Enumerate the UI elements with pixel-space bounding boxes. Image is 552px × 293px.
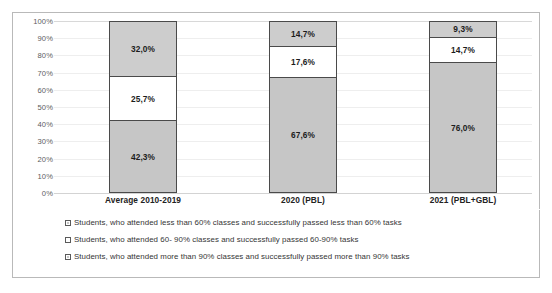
stacked-bar-chart: 100%90%80%70%60%50%40%30%20%10%0% 32,0%2… bbox=[13, 13, 541, 209]
legend-swatch-icon bbox=[65, 254, 71, 260]
x-axis-category-label: 2020 (PBL) bbox=[223, 195, 383, 205]
y-axis-tick: 40% bbox=[19, 120, 53, 129]
legend-swatch-icon bbox=[65, 237, 71, 243]
x-axis-category-label: 2021 (PBL+GBL) bbox=[383, 195, 543, 205]
chart-legend: Students, who attended less than 60% cla… bbox=[13, 213, 541, 267]
bar-segment-value-label: 9,3% bbox=[453, 24, 472, 34]
legend-item[interactable]: Students, who attended more than 90% cla… bbox=[65, 251, 410, 262]
legend-item-label: Students, who attended more than 90% cla… bbox=[74, 252, 410, 261]
y-axis-tick: 60% bbox=[19, 85, 53, 94]
bar-segment[interactable]: 14,7% bbox=[269, 21, 337, 46]
bar-segment-value-label: 67,6% bbox=[291, 130, 315, 140]
bar-segment[interactable]: 67,6% bbox=[269, 77, 337, 193]
legend-item-label: Students, who attended 60- 90% classes a… bbox=[74, 235, 358, 244]
y-axis-tick: 50% bbox=[19, 103, 53, 112]
bar-2[interactable]: 14,7%17,6%67,6% bbox=[269, 21, 337, 193]
bar-3[interactable]: 9,3%14,7%76,0% bbox=[429, 21, 497, 193]
x-axis-category-label: Average 2010-2019 bbox=[63, 195, 223, 205]
legend-swatch-icon bbox=[65, 220, 71, 226]
y-axis-tick: 30% bbox=[19, 137, 53, 146]
bar-segment[interactable]: 14,7% bbox=[429, 37, 497, 62]
legend-divider bbox=[13, 209, 541, 210]
bar-segment[interactable]: 17,6% bbox=[269, 46, 337, 76]
chart-figure-frame: 100%90%80%70%60%50%40%30%20%10%0% 32,0%2… bbox=[12, 12, 540, 278]
bar-segment[interactable]: 9,3% bbox=[429, 21, 497, 37]
legend-item[interactable]: Students, who attended 60- 90% classes a… bbox=[65, 234, 358, 245]
y-axis-tick: 90% bbox=[19, 34, 53, 43]
x-axis-category-labels: Average 2010-20192020 (PBL)2021 (PBL+GBL… bbox=[54, 195, 532, 209]
y-axis-tick: 70% bbox=[19, 68, 53, 77]
bar-segment-value-label: 76,0% bbox=[451, 123, 475, 133]
bar-segment-value-label: 32,0% bbox=[131, 44, 155, 54]
gridline bbox=[54, 193, 532, 194]
y-axis-tick: 20% bbox=[19, 154, 53, 163]
bar-segment[interactable]: 76,0% bbox=[429, 62, 497, 193]
y-axis-tick: 10% bbox=[19, 171, 53, 180]
y-axis-tick: 80% bbox=[19, 51, 53, 60]
legend-item-label: Students, who attended less than 60% cla… bbox=[74, 218, 402, 227]
y-axis-tick-labels: 100%90%80%70%60%50%40%30%20%10%0% bbox=[19, 21, 53, 193]
bar-segment-value-label: 17,6% bbox=[291, 57, 315, 67]
bar-segment-value-label: 14,7% bbox=[291, 29, 315, 39]
bar-segment[interactable]: 25,7% bbox=[109, 76, 177, 120]
bar-segment-value-label: 42,3% bbox=[131, 152, 155, 162]
legend-item[interactable]: Students, who attended less than 60% cla… bbox=[65, 217, 402, 228]
y-axis-tick: 0% bbox=[19, 189, 53, 198]
bar-segment[interactable]: 42,3% bbox=[109, 120, 177, 193]
plot-area: 32,0%25,7%42,3%14,7%17,6%67,6%9,3%14,7%7… bbox=[54, 21, 532, 193]
bar-segment-value-label: 25,7% bbox=[131, 94, 155, 104]
bar-segment[interactable]: 32,0% bbox=[109, 21, 177, 76]
y-axis-tick: 100% bbox=[19, 17, 53, 26]
bar-1[interactable]: 32,0%25,7%42,3% bbox=[109, 21, 177, 193]
bar-segment-value-label: 14,7% bbox=[451, 45, 475, 55]
